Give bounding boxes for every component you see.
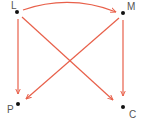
node-p-dot — [16, 102, 20, 106]
node-m: M — [121, 1, 135, 15]
node-l: L — [11, 0, 19, 14]
node-c-label: C — [129, 109, 136, 120]
node-p: P — [7, 102, 20, 115]
node-m-dot — [121, 11, 125, 15]
edge-l-to-c — [22, 17, 113, 100]
directed-graph: L M P C — [0, 0, 144, 126]
node-p-label: P — [7, 104, 14, 115]
node-m-label: M — [127, 1, 135, 12]
edge-m-to-p — [26, 18, 119, 99]
node-c-dot — [121, 105, 125, 109]
edge-l-to-m — [23, 2, 116, 12]
node-c: C — [121, 105, 136, 120]
node-l-label: L — [11, 0, 17, 11]
